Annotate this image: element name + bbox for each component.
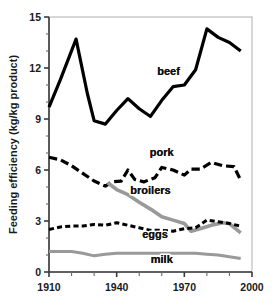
series-label-milk: milk [151,253,174,265]
x-tick-label: 1970 [173,281,197,293]
axis-titles: Feeding efficiency (kg/kg product) [7,55,19,234]
feeding-efficiency-line-chart: 03691215 1910194019702000 beefbeefporkpo… [0,0,274,308]
x-tick-label: 1940 [105,281,129,293]
series-label-pork: pork [150,146,175,158]
y-tick-label: 0 [35,266,41,278]
y-tick-label: 3 [35,215,41,227]
y-tick-label: 6 [35,164,41,176]
x-tick-label: 2000 [240,281,264,293]
y-tick-label: 15 [29,11,41,23]
y-tick-label: 12 [29,62,41,74]
series-label-eggs: eggs [142,228,168,240]
chart-container: 03691215 1910194019702000 beefbeefporkpo… [0,0,274,308]
x-tick-label: 1910 [37,281,61,293]
y-axis-title: Feeding efficiency (kg/kg product) [7,55,19,234]
y-tick-label: 9 [35,113,41,125]
series-label-broilers: broilers [130,184,170,196]
series-label-beef: beef [157,65,180,77]
